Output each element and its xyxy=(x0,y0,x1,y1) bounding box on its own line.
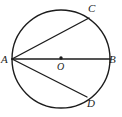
circle-diagram-canvas xyxy=(0,0,122,117)
segment-ac-chord xyxy=(12,18,89,59)
point-label-o: O xyxy=(57,61,64,72)
point-label-c: C xyxy=(88,3,95,14)
center-point-dot xyxy=(59,56,62,59)
point-label-a: A xyxy=(1,54,8,65)
point-label-d: D xyxy=(87,98,95,109)
point-label-b: B xyxy=(109,54,116,65)
geometry-figure: A B C D O xyxy=(0,0,122,117)
